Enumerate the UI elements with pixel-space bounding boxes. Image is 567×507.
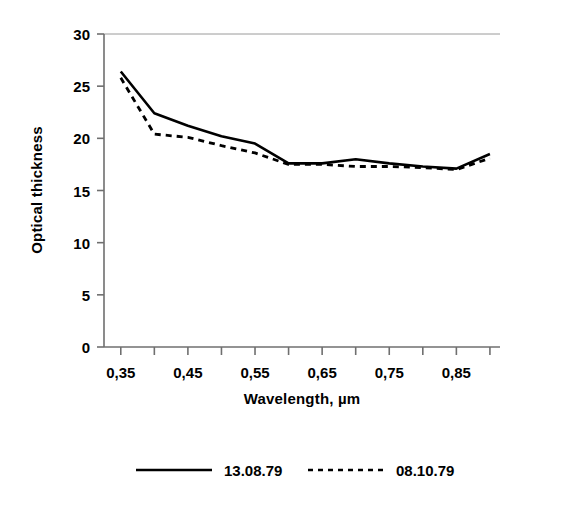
x-tick-label: 0,55	[240, 364, 269, 381]
y-tick-label: 15	[73, 183, 90, 200]
y-tick-label: 0	[82, 339, 90, 356]
legend-label-series-2: 08.10.79	[396, 462, 454, 479]
y-tick-label: 25	[73, 78, 90, 95]
y-axis-title: Optical thickness	[28, 126, 45, 254]
legend-label-series-1: 13.08.79	[224, 462, 282, 479]
x-tick-label: 0,85	[442, 364, 471, 381]
y-tick-label: 5	[82, 287, 90, 304]
x-tick-label: 0,65	[308, 364, 337, 381]
x-tick-label: 0,75	[375, 364, 404, 381]
chart-figure: 051015202530 0,350,450,550,650,750,85 Op…	[0, 0, 567, 507]
optical-thickness-line-chart: 051015202530 0,350,450,550,650,750,85 Op…	[0, 0, 567, 507]
y-tick-label: 30	[73, 26, 90, 43]
x-tick-label: 0,45	[173, 364, 202, 381]
y-tick-label: 10	[73, 235, 90, 252]
x-axis-title: Wavelength, µm	[244, 390, 361, 407]
x-tick-label: 0,35	[106, 364, 135, 381]
y-tick-label: 20	[73, 130, 90, 147]
chart-background	[0, 0, 567, 507]
